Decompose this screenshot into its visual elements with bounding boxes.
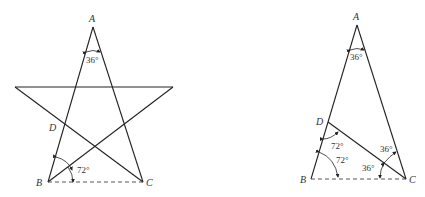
right-triangle: A D B C 36° 72° 72° 36° 36° bbox=[300, 11, 416, 185]
angle-label-C-lower: 36° bbox=[362, 163, 375, 173]
apex-angle-arc bbox=[350, 49, 364, 51]
angle-label-apex: 36° bbox=[350, 52, 363, 62]
angle-label-B: 72° bbox=[77, 165, 90, 175]
apex-angle-arc bbox=[86, 51, 100, 53]
angle-B-arc-upper bbox=[56, 157, 72, 170]
label-D: D bbox=[48, 122, 57, 133]
angle-C-lower-arc bbox=[380, 163, 384, 178]
angle-label-apex: 36° bbox=[86, 55, 99, 65]
left-pentagram: A D B C 36° 72° bbox=[15, 13, 173, 188]
label-A: A bbox=[88, 13, 96, 24]
line-AB bbox=[48, 27, 93, 182]
angle-label-B: 72° bbox=[336, 155, 349, 165]
diagram-canvas: A D B C 36° 72° A D B C 36° 72° 72° 36° … bbox=[0, 0, 425, 197]
label-A: A bbox=[352, 11, 360, 22]
line-right-to-B bbox=[48, 87, 173, 182]
label-C: C bbox=[146, 177, 153, 188]
line-AC bbox=[93, 27, 143, 182]
label-B: B bbox=[36, 177, 42, 188]
angle-B-arc-lower bbox=[68, 167, 73, 182]
label-D: D bbox=[315, 116, 324, 127]
line-AC bbox=[357, 25, 406, 179]
angle-label-C-upper: 36° bbox=[380, 144, 393, 154]
label-C: C bbox=[409, 174, 416, 185]
angle-label-D: 72° bbox=[331, 141, 344, 151]
line-AB bbox=[311, 25, 357, 179]
label-B: B bbox=[300, 174, 306, 185]
